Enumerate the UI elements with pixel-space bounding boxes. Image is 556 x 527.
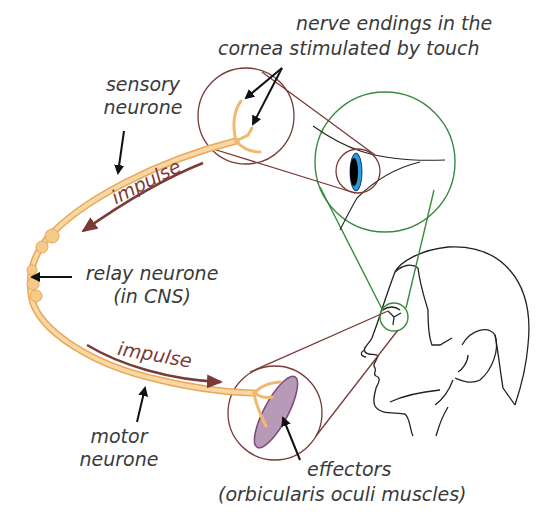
- head-profile-outline: [361, 247, 529, 436]
- small-eye-icon: [388, 311, 401, 325]
- label-orbicularis-oculi: (orbicularis oculi muscles): [218, 483, 467, 506]
- label-motor-neurone: motor neurone: [74, 425, 164, 471]
- label-cornea-stimulated: cornea stimulated by touch: [218, 37, 480, 60]
- label-sensory-neurone: sensory neurone: [98, 73, 188, 119]
- label-line: neurone: [74, 448, 164, 471]
- label-effectors: effectors: [307, 458, 391, 481]
- label-line: nerve endings in the: [296, 12, 492, 35]
- green-magnifier: [315, 92, 455, 331]
- label-relay-neurone: relay neurone (in CNS): [82, 262, 222, 308]
- label-line: motor: [74, 425, 164, 448]
- label-line: sensory: [98, 73, 188, 96]
- label-line: (in CNS): [82, 285, 222, 308]
- eye-detail: [313, 126, 445, 230]
- pupil-icon: [350, 158, 358, 186]
- red-magnifier: [198, 68, 398, 460]
- label-line: relay neurone: [82, 262, 222, 285]
- label-nerve-endings: nerve endings in the: [296, 12, 492, 35]
- label-line: neurone: [98, 96, 188, 119]
